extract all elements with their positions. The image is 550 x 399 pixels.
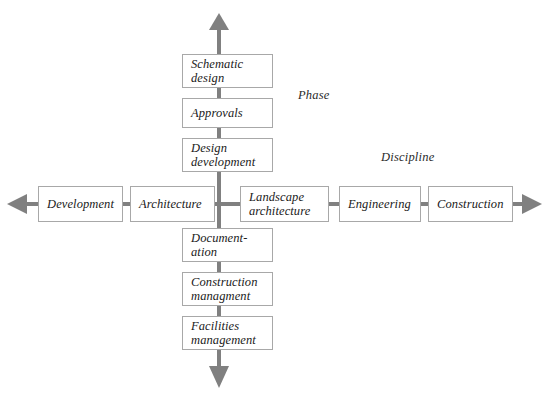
node-construction-managment[interactable]: Construction managment (182, 272, 273, 306)
node-design-development[interactable]: Design development (182, 138, 273, 172)
node-engineering[interactable]: Engineering (339, 186, 421, 222)
node-architecture[interactable]: Architecture (130, 186, 215, 222)
node-label: Architecture (139, 197, 202, 211)
node-label: Construction managment (191, 275, 257, 303)
arrow-right-icon (522, 194, 542, 214)
arrow-down-icon (209, 366, 229, 388)
node-label: Construction (437, 197, 503, 211)
node-label: Landscape architecture (249, 190, 310, 218)
arrow-left-icon (7, 194, 27, 214)
node-label: Engineering (348, 197, 411, 211)
node-development[interactable]: Development (38, 186, 123, 222)
node-facilities-management[interactable]: Facilities management (182, 316, 273, 350)
node-construction[interactable]: Construction (428, 186, 513, 222)
node-label: Schematic design (191, 57, 243, 85)
node-label: Approvals (191, 106, 243, 120)
node-approvals[interactable]: Approvals (182, 98, 273, 128)
node-landscape-architecture[interactable]: Landscape architecture (240, 186, 329, 222)
node-label: Development (47, 197, 114, 211)
diagram-canvas: Schematic design Approvals Design develo… (0, 0, 550, 399)
node-documentation[interactable]: Document- ation (182, 228, 273, 262)
node-schematic-design[interactable]: Schematic design (182, 54, 273, 88)
phase-axis-label: Phase (298, 88, 330, 103)
arrow-up-icon (209, 13, 229, 30)
node-label: Document- ation (191, 231, 247, 259)
node-label: Facilities management (191, 319, 256, 347)
discipline-axis-label: Discipline (381, 150, 434, 165)
node-label: Design development (191, 141, 255, 169)
